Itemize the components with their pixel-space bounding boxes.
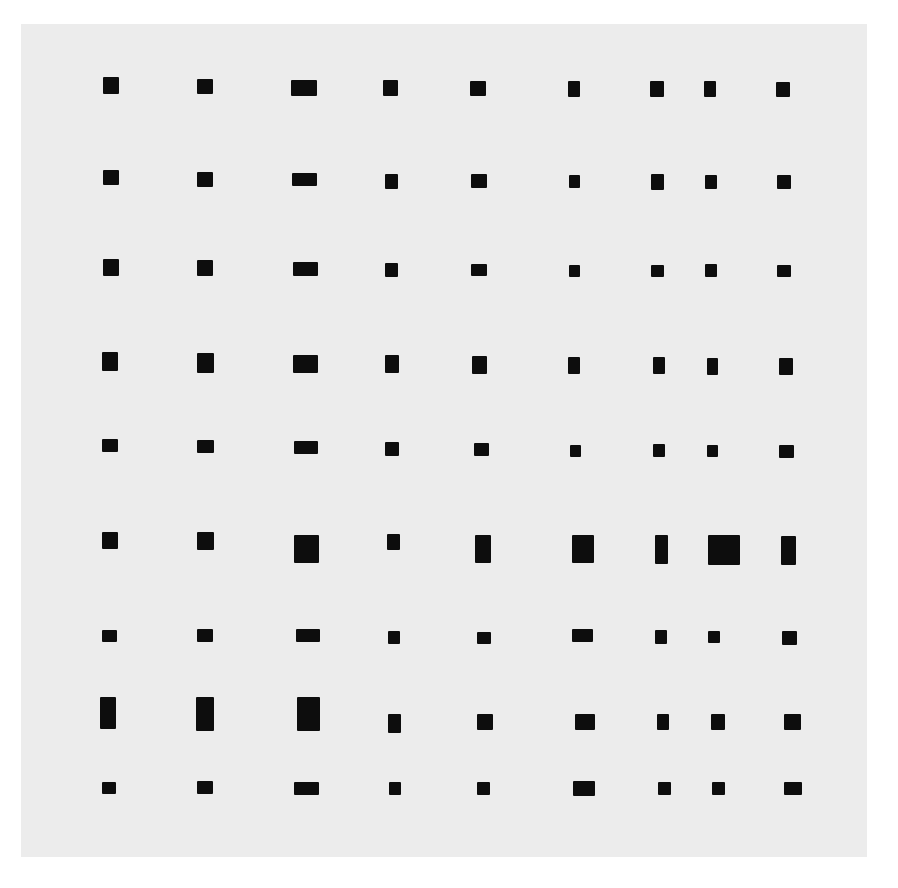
- black-rectangle: [711, 714, 725, 730]
- black-rectangle: [383, 80, 398, 96]
- black-rectangle: [653, 357, 665, 374]
- black-rectangle: [296, 629, 320, 642]
- black-rectangle: [197, 260, 213, 276]
- black-rectangle: [294, 782, 319, 795]
- black-rectangle: [293, 355, 318, 373]
- black-rectangle: [196, 697, 214, 731]
- black-rectangle: [297, 697, 320, 731]
- black-rectangle: [653, 444, 665, 457]
- black-rectangle: [477, 632, 491, 644]
- black-rectangle: [568, 357, 580, 374]
- black-rectangle: [102, 630, 117, 642]
- black-rectangle: [103, 170, 119, 185]
- black-rectangle: [387, 534, 400, 550]
- black-rectangle: [197, 532, 214, 550]
- black-rectangle: [385, 442, 399, 456]
- black-rectangle: [477, 714, 493, 730]
- black-rectangle: [569, 265, 580, 277]
- black-rectangle: [655, 630, 667, 644]
- black-rectangle: [575, 714, 595, 730]
- black-rectangle: [472, 356, 487, 374]
- black-rectangle: [651, 265, 664, 277]
- black-rectangle: [100, 697, 116, 729]
- black-rectangle: [470, 81, 486, 96]
- black-rectangle: [658, 782, 671, 795]
- black-rectangle: [389, 782, 401, 795]
- black-rectangle: [292, 173, 317, 186]
- black-rectangle: [784, 782, 802, 795]
- black-rectangle: [570, 445, 581, 457]
- black-rectangle: [781, 536, 796, 565]
- black-rectangle: [102, 439, 118, 452]
- black-rectangle: [777, 265, 791, 277]
- black-rectangle: [385, 263, 398, 277]
- black-rectangle: [779, 358, 793, 375]
- black-rectangle: [657, 714, 669, 730]
- black-rectangle: [197, 781, 213, 794]
- black-rectangle: [294, 441, 318, 454]
- black-rectangle: [712, 782, 725, 795]
- black-rectangle: [471, 264, 487, 276]
- black-rectangle: [103, 259, 119, 276]
- black-rectangle: [197, 440, 214, 453]
- black-rectangle: [471, 174, 487, 188]
- black-rectangle: [650, 81, 664, 97]
- black-rectangle: [777, 175, 791, 189]
- black-rectangle: [651, 174, 664, 190]
- black-rectangle: [572, 535, 594, 563]
- black-rectangle: [707, 445, 718, 457]
- black-rectangle: [102, 352, 118, 371]
- black-rectangle: [197, 629, 213, 642]
- black-rectangle: [197, 172, 213, 187]
- black-rectangle: [385, 355, 399, 373]
- black-rectangle: [569, 175, 580, 188]
- black-rectangle: [572, 629, 593, 642]
- black-rectangle: [784, 714, 801, 730]
- black-rectangle: [704, 81, 716, 97]
- black-rectangle: [385, 174, 398, 189]
- black-rectangle: [293, 262, 318, 276]
- black-rectangle: [294, 535, 319, 563]
- black-rectangle: [573, 781, 595, 796]
- black-rectangle: [568, 81, 580, 97]
- black-rectangle: [103, 77, 119, 94]
- black-rectangle: [475, 535, 491, 563]
- black-rectangle: [705, 175, 717, 189]
- black-rectangle: [707, 358, 718, 375]
- black-rectangle: [477, 782, 490, 795]
- black-rectangle: [102, 532, 118, 549]
- black-rectangle: [782, 631, 797, 645]
- artwork-panel: [21, 24, 867, 857]
- black-rectangle: [197, 79, 213, 94]
- black-rectangle: [388, 631, 400, 644]
- black-rectangle: [779, 445, 794, 458]
- black-rectangle: [388, 714, 401, 733]
- black-rectangle: [705, 264, 717, 277]
- black-rectangle: [708, 631, 720, 643]
- black-rectangle: [776, 82, 790, 97]
- black-rectangle: [102, 782, 116, 794]
- black-rectangle: [197, 353, 214, 373]
- black-rectangle: [291, 80, 317, 96]
- black-rectangle: [655, 535, 668, 564]
- black-rectangle: [474, 443, 489, 456]
- black-rectangle: [708, 535, 740, 565]
